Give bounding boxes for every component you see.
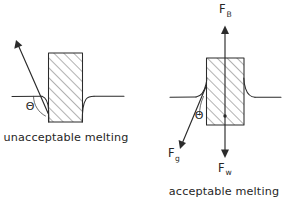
left-hatched-block-fill [49,53,83,122]
right-weld-curve-right [244,78,255,97]
left-weld-curve-left [42,96,49,122]
force-g-subscript: g [175,154,180,163]
right-caption: acceptable melting [169,185,279,198]
force-b-label: F [219,2,226,16]
left-panel: Θ unacceptable melting [4,40,129,144]
force-g-label: F [168,146,175,160]
force-w-subscript: w [226,168,232,177]
left-caption: unacceptable melting [4,131,129,144]
right-panel: F B F w F g Θ acceptable melting [168,2,281,198]
left-weld-curve-right [82,96,94,122]
force-w-label: F [218,161,225,175]
left-force-arrow-head [14,40,22,49]
force-b-arrow-head [221,26,229,35]
diagram-canvas: Θ unacceptable melting F B [0,0,286,207]
force-b-subscript: B [227,10,232,19]
left-angle-arc [34,96,46,116]
force-g-arrow-head [179,140,186,149]
right-theta-label: Θ [195,109,204,122]
left-theta-label: Θ [26,100,35,113]
force-w-arrow-head [221,150,229,159]
welding-melting-figure: Θ unacceptable melting F B [0,0,286,207]
